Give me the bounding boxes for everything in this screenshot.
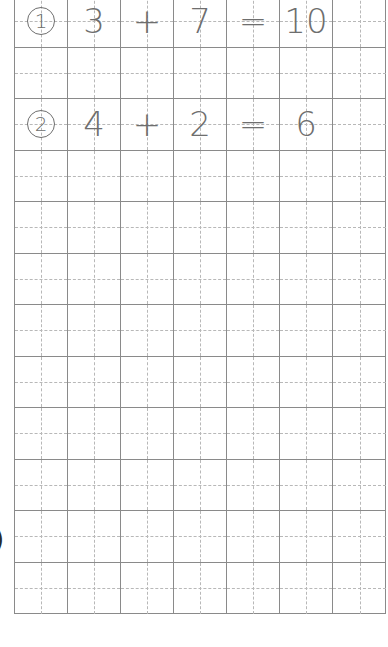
writing-grid: 1 3 + 7 = 10 2 4 + 2 = 6 bbox=[14, 0, 386, 614]
grid-cell: 3 bbox=[68, 0, 121, 47]
grid-row bbox=[15, 511, 385, 563]
grid-row bbox=[15, 202, 385, 254]
grid-row bbox=[15, 408, 385, 460]
grid-cell bbox=[333, 99, 386, 150]
grid-row bbox=[15, 357, 385, 409]
grid-row bbox=[15, 254, 385, 306]
operand-a: 3 bbox=[83, 4, 105, 38]
equals-sign: = bbox=[239, 107, 268, 141]
grid-cell: 6 bbox=[280, 99, 333, 150]
grid-cell: 2 bbox=[174, 99, 227, 150]
margin-parenthesis: ) bbox=[0, 526, 4, 552]
grid-row bbox=[15, 305, 385, 357]
operand-b: 7 bbox=[189, 4, 211, 38]
plus-sign: + bbox=[133, 107, 162, 141]
problem-number-1: 1 bbox=[27, 7, 55, 35]
grid-row bbox=[15, 48, 385, 100]
problem-number-2: 2 bbox=[27, 110, 55, 138]
result: 6 bbox=[295, 107, 317, 141]
grid-cell: 2 bbox=[15, 99, 68, 150]
grid-cell: 4 bbox=[68, 99, 121, 150]
grid-row-problem-2: 2 4 + 2 = 6 bbox=[15, 99, 385, 151]
result: 10 bbox=[284, 4, 327, 38]
grid-cell bbox=[333, 0, 386, 47]
grid-row bbox=[15, 151, 385, 203]
grid-cell: + bbox=[121, 99, 174, 150]
equals-sign: = bbox=[239, 4, 268, 38]
plus-sign: + bbox=[133, 4, 162, 38]
grid-row bbox=[15, 563, 385, 615]
grid-cell: 10 bbox=[280, 0, 333, 47]
grid-row bbox=[15, 460, 385, 512]
grid-cell: 7 bbox=[174, 0, 227, 47]
grid-cell: 1 bbox=[15, 0, 68, 47]
operand-a: 4 bbox=[83, 107, 105, 141]
grid-cell: = bbox=[227, 99, 280, 150]
grid-row-problem-1: 1 3 + 7 = 10 bbox=[15, 0, 385, 48]
grid-cell: = bbox=[227, 0, 280, 47]
operand-b: 2 bbox=[189, 107, 211, 141]
grid-cell: + bbox=[121, 0, 174, 47]
